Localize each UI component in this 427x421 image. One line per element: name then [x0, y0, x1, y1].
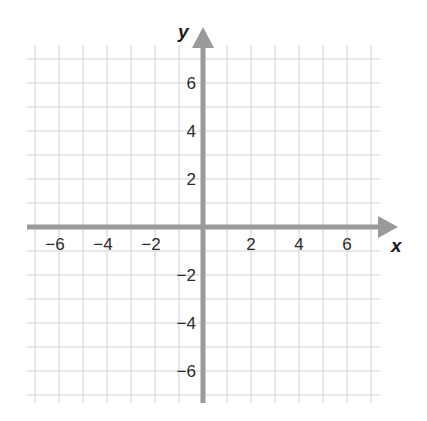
x-tick-label: −6 — [45, 235, 64, 254]
coordinate-plane: −6−4−2246 642−2−4−6 x y — [0, 0, 427, 421]
y-tick-label: −4 — [177, 314, 196, 333]
y-tick-label: 2 — [187, 170, 196, 189]
y-axis-label: y — [177, 21, 190, 42]
x-tick-label: 6 — [342, 235, 351, 254]
x-tick-label: −2 — [141, 235, 160, 254]
x-tick-label: 2 — [246, 235, 255, 254]
y-tick-label: −6 — [177, 362, 196, 381]
y-tick-label: 4 — [187, 122, 196, 141]
x-tick-label: 4 — [294, 235, 303, 254]
y-axis-arrow-icon — [192, 27, 214, 48]
y-tick-label: −2 — [177, 266, 196, 285]
x-axis-label: x — [390, 235, 403, 256]
x-tick-label: −4 — [93, 235, 112, 254]
y-axis-line — [201, 47, 206, 403]
y-tick-label: 6 — [187, 74, 196, 93]
